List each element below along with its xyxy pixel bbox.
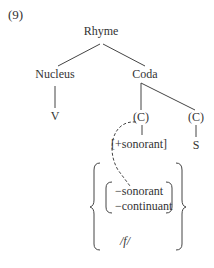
feature-minus-sonorant: −sonorant xyxy=(115,184,163,198)
feature-sonorant: [+sonorant] xyxy=(111,137,167,151)
tree-lines xyxy=(0,0,214,268)
node-v: V xyxy=(51,109,60,123)
node-rhyme: Rhyme xyxy=(84,24,119,38)
feature-minus-continuant: −continuant xyxy=(115,199,172,213)
node-s: S xyxy=(193,138,200,152)
node-nucleus: Nucleus xyxy=(35,67,74,81)
node-c1: (C) xyxy=(133,110,149,124)
node-c2: (C) xyxy=(188,110,204,124)
example-number: (9) xyxy=(8,8,23,22)
node-coda: Coda xyxy=(132,67,157,81)
segment-f: /f/ xyxy=(120,234,130,248)
